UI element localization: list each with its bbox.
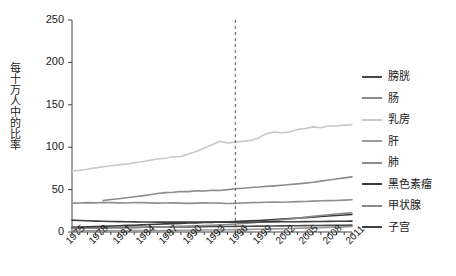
legend-label: 膀胱: [388, 71, 410, 82]
legend-label: 黑色素瘤: [388, 179, 432, 190]
legend-color-swatch: [362, 226, 382, 228]
legend-color-swatch: [362, 205, 382, 207]
y-tick-label: 100: [30, 141, 64, 152]
y-tick-label: 50: [30, 184, 64, 195]
data-series-lines: [72, 125, 352, 231]
series-line: [103, 177, 352, 201]
y-axis-ticks: [68, 20, 72, 232]
y-tick-label: 250: [30, 14, 64, 25]
y-tick-label: 200: [30, 56, 64, 67]
legend-label: 子宫: [388, 222, 410, 233]
legend-label: 肠: [388, 93, 399, 104]
legend-item[interactable]: 黑色素瘤: [362, 174, 456, 196]
chart-legend: 膀胱肠乳房肝肺黑色素瘤甲状腺子宫: [362, 66, 456, 238]
legend-label: 肝: [388, 136, 399, 147]
legend-label: 甲状腺: [388, 200, 421, 211]
legend-item[interactable]: 子宫: [362, 217, 456, 239]
legend-item[interactable]: 肺: [362, 152, 456, 174]
y-tick-label: 150: [30, 99, 64, 110]
legend-label: 肺: [388, 157, 399, 168]
legend-label: 乳房: [388, 114, 410, 125]
legend-color-swatch: [362, 162, 382, 164]
legend-color-swatch: [362, 140, 382, 142]
legend-item[interactable]: 肝: [362, 131, 456, 153]
legend-color-swatch: [362, 97, 382, 99]
legend-item[interactable]: 肠: [362, 88, 456, 110]
chart-figure: 每十万人中的比率 050100150200250 197519781981198…: [0, 0, 456, 276]
legend-color-swatch: [362, 76, 382, 78]
legend-color-swatch: [362, 119, 382, 121]
legend-item[interactable]: 甲状腺: [362, 195, 456, 217]
legend-color-swatch: [362, 183, 382, 185]
series-line: [72, 125, 352, 171]
series-line: [72, 220, 352, 222]
axis-lines: [72, 20, 352, 232]
series-line: [72, 200, 352, 204]
y-tick-label: 0: [30, 226, 64, 237]
legend-item[interactable]: 膀胱: [362, 66, 456, 88]
legend-item[interactable]: 乳房: [362, 109, 456, 131]
